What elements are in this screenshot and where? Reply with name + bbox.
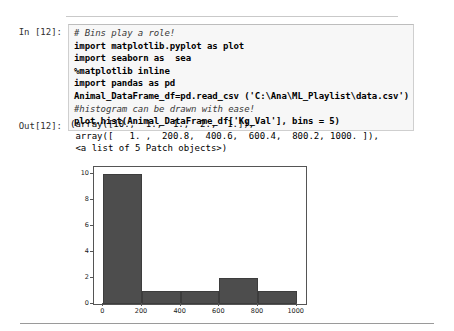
input-prompt-label: In [12]: [0,24,68,39]
bar-series [94,167,306,304]
y-tick-mark [90,225,93,226]
y-tick-label: 2 [85,273,89,281]
y-tick-mark [90,173,93,174]
x-tick-mark [102,303,103,306]
code-line: Animal_DataFrame_df=pd.read_csv ('C:\Ana… [74,90,409,103]
histogram-bar [181,291,220,304]
code-line: # Bins play a role! [74,27,409,40]
plot-area [93,166,307,305]
y-tick-label: 10 [81,169,89,177]
y-tick-label: 4 [85,247,89,255]
input-cell[interactable]: In [12]: # Bins play a role!import matpl… [0,24,454,131]
y-tick-mark [90,199,93,200]
x-tick-mark [180,303,181,306]
output-line: (array([10., 1., 1., 2., 1.]), [70,118,454,130]
y-tick-label: 8 [85,195,89,203]
x-tick-mark [141,303,142,306]
output-text: (array([10., 1., 1., 2., 1.]), array([ 1… [68,118,454,155]
x-tick-mark [218,303,219,306]
output-cell: Out[12]: (array([10., 1., 1., 2., 1.]), … [0,118,454,155]
output-line: <a list of 5 Patch objects>) [70,142,454,154]
code-line: import matplotlib.pyplot as plot [74,40,409,53]
histogram-figure: 024681002004006008001000 [66,158,326,318]
histogram-bar [219,278,258,304]
y-tick-mark [90,277,93,278]
histogram-bar [103,174,142,304]
code-line: %matplotlib inline [74,65,409,78]
x-tick-mark [296,303,297,306]
histogram-bar [142,291,181,304]
y-tick-mark [90,251,93,252]
y-tick-label: 6 [85,221,89,229]
cell-top-divider [66,16,398,17]
x-tick-label: 600 [212,307,224,315]
code-line: import pandas as pd [74,77,409,90]
x-tick-label: 200 [135,307,147,315]
notebook-page: In [12]: # Bins play a role!import matpl… [0,0,454,331]
page-bottom-divider [20,323,434,324]
output-line: array([ 1. , 200.8, 400.6, 600.4, 800.2,… [70,130,454,142]
x-tick-mark [257,303,258,306]
histogram-bar [258,291,297,304]
code-line: #histogram can be drawn with ease! [74,103,409,116]
y-tick-mark [90,303,93,304]
y-tick-label: 0 [85,299,89,307]
x-tick-label: 0 [100,307,104,315]
x-tick-label: 1000 [287,307,304,315]
x-tick-label: 400 [173,307,185,315]
x-tick-label: 800 [251,307,263,315]
code-line: import seaborn as sea [74,52,409,65]
output-prompt-label: Out[12]: [0,118,68,133]
code-editor[interactable]: # Bins play a role!import matplotlib.pyp… [68,24,414,131]
